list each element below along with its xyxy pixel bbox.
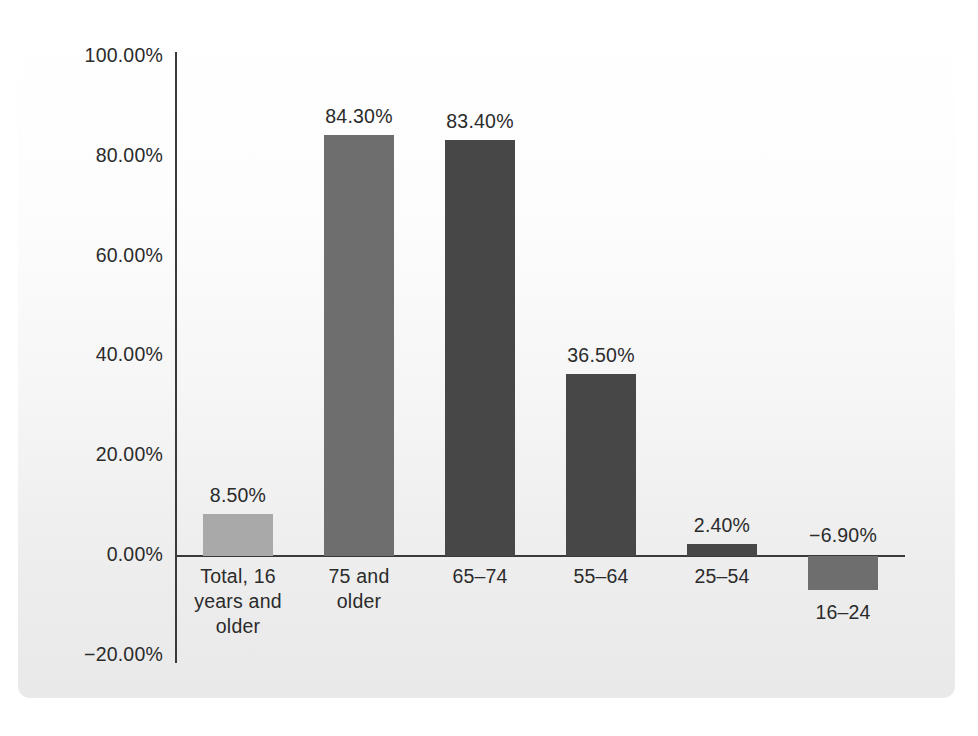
bar-value-label: 83.40% [420, 110, 540, 133]
y-axis-tick-text: 40.00% [96, 343, 163, 366]
bar-value-label: 84.30% [299, 105, 419, 128]
bar[interactable] [687, 544, 757, 556]
y-axis-tick-text: 80.00% [96, 144, 163, 167]
y-axis-tick-text: −20.00% [84, 643, 163, 666]
y-axis-tick-text: 0.00% [107, 543, 163, 566]
category-label: 25–54 [652, 564, 792, 589]
category-label: Total, 16 years and older [168, 564, 308, 639]
bar[interactable] [324, 135, 394, 556]
bar[interactable] [808, 556, 878, 590]
bar-chart-plot-area: 100.00%80.00%60.00%40.00%20.00%0.00%−20.… [0, 0, 978, 736]
bar[interactable] [445, 140, 515, 556]
bar-value-label: 8.50% [178, 484, 298, 507]
y-axis-tick-labels: 100.00%80.00%60.00%40.00%20.00%0.00%−20.… [0, 0, 175, 736]
y-axis-tick-text: 60.00% [96, 244, 163, 267]
y-axis-tick-text: 20.00% [96, 443, 163, 466]
bar-value-label: 36.50% [541, 344, 661, 367]
y-axis-tick-text: 100.00% [85, 44, 163, 67]
category-label: 65–74 [410, 564, 550, 589]
bar-value-label: 2.40% [662, 514, 782, 537]
bar[interactable] [566, 374, 636, 556]
x-axis-baseline [175, 555, 905, 557]
category-label: 16–24 [773, 600, 913, 625]
bar[interactable] [203, 514, 273, 556]
bar-value-label: −6.90% [783, 524, 903, 547]
chart-figure: 100.00%80.00%60.00%40.00%20.00%0.00%−20.… [0, 0, 978, 736]
category-label: 55–64 [531, 564, 671, 589]
category-label: 75 and older [289, 564, 429, 614]
